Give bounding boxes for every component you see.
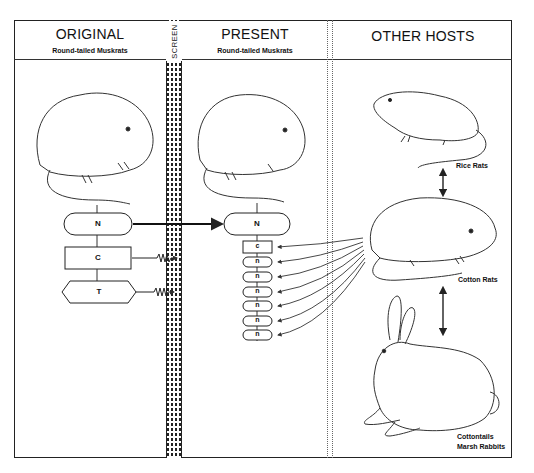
present-node-n3-label: n bbox=[243, 287, 272, 294]
muskrat-original-illustration bbox=[37, 93, 153, 204]
host-label-cottontails: Cottontails bbox=[457, 433, 494, 440]
original-node-t-label: T bbox=[62, 287, 136, 296]
blocked-arrow-c bbox=[132, 254, 177, 262]
original-node-n-label: N bbox=[64, 219, 132, 228]
original-node-c-label: C bbox=[65, 253, 131, 262]
present-node-n4-label: n bbox=[243, 301, 272, 308]
host-label-marsh-rabbits: Marsh Rabbits bbox=[457, 443, 505, 450]
blocked-arrow-t bbox=[136, 288, 174, 296]
host-transfer-arrows bbox=[278, 238, 365, 335]
present-node-n6-label: n bbox=[243, 330, 272, 337]
present-node-n5-label: n bbox=[243, 316, 272, 323]
host-label-cotton-rats: Cotton Rats bbox=[458, 276, 498, 283]
present-node-n-list bbox=[243, 253, 272, 341]
present-node-n2-label: n bbox=[243, 272, 272, 279]
muskrat-present-illustration bbox=[198, 95, 305, 202]
present-node-n1-label: n bbox=[243, 257, 272, 264]
present-node-n-label: N bbox=[224, 219, 290, 228]
diagram-graphics bbox=[0, 0, 534, 473]
rice-rat-illustration bbox=[374, 92, 486, 168]
present-node-c-label: c bbox=[243, 242, 272, 249]
host-label-rice-rats: Rice Rats bbox=[456, 162, 488, 169]
cotton-rat-illustration bbox=[370, 198, 496, 280]
rabbit-illustration bbox=[364, 296, 499, 436]
